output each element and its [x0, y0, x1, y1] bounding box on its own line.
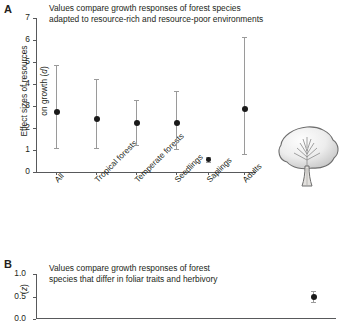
data-point[interactable]	[54, 109, 60, 115]
panel-b-y-tick-label: 1.0	[4, 268, 26, 278]
panel-a-y-tick-label: 3	[8, 100, 30, 110]
data-point[interactable]	[311, 294, 317, 300]
panel-a-y-tick-label: 7	[8, 12, 30, 22]
panel-a-y-axis-line	[36, 18, 37, 172]
error-bar-cap	[311, 302, 316, 303]
panel-b-y-tick	[33, 319, 36, 320]
panel-a-y-tick	[33, 150, 36, 151]
error-bar	[244, 37, 245, 155]
error-bar-cap	[94, 79, 99, 80]
error-bar-cap	[311, 291, 316, 292]
tree-canopy	[279, 127, 338, 169]
panel-a-y-tick	[33, 40, 36, 41]
data-point[interactable]	[94, 116, 100, 122]
error-bar-cap	[242, 37, 247, 38]
error-bar-cap	[54, 65, 59, 66]
panel-a-y-tick-label: 0	[8, 166, 30, 176]
panel-a-plot-area: 01234567AllTropical forestsTemperate for…	[36, 18, 256, 172]
x-axis-label: Adults	[241, 162, 263, 184]
panel-b-y-tick	[33, 297, 36, 298]
panel-a-y-tick	[33, 62, 36, 63]
data-point[interactable]	[134, 120, 140, 126]
panel-b-y-axis-title-close: )	[19, 284, 29, 287]
error-bar-cap	[174, 149, 179, 150]
panel-b-y-tick-label: 0.5	[4, 291, 26, 301]
panel-a-y-tick	[33, 172, 36, 173]
error-bar-cap	[242, 154, 247, 155]
data-point[interactable]	[242, 106, 248, 112]
panel-b-y-tick-label: 0.0	[4, 313, 26, 323]
error-bar-cap	[54, 148, 59, 149]
panel-a-y-tick	[33, 84, 36, 85]
panel-a-y-tick-label: 6	[8, 34, 30, 44]
x-axis-label: Seedlings	[173, 153, 205, 185]
panel-a-y-tick-label: 1	[8, 144, 30, 154]
error-bar-cap	[134, 100, 139, 101]
panel-a-y-tick-label: 5	[8, 56, 30, 66]
error-bar-cap	[206, 162, 211, 163]
panel-b-y-axis-line	[36, 274, 37, 319]
error-bar-cap	[94, 148, 99, 149]
panel-a-y-tick-label: 2	[8, 122, 30, 132]
panel-a-y-tick	[33, 128, 36, 129]
error-bar	[96, 79, 97, 149]
panel-b-plot-area: 0.00.51.0	[36, 274, 336, 319]
x-axis-label: All	[53, 172, 66, 185]
panel-a-y-tick	[33, 106, 36, 107]
error-bar	[56, 65, 57, 148]
tree-illustration	[272, 124, 342, 190]
error-bar-cap	[174, 91, 179, 92]
panel-b-x-axis-line	[36, 318, 336, 319]
panel-b-y-tick	[33, 274, 36, 275]
panel-a-y-tick-label: 4	[8, 78, 30, 88]
data-point[interactable]	[174, 120, 180, 126]
error-bar-cap	[134, 145, 139, 146]
panel-a-y-tick	[33, 18, 36, 19]
